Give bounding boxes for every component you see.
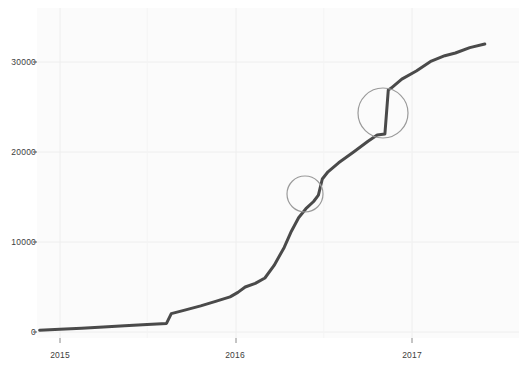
y-axis-tick-label-30000: 30000: [2, 57, 36, 67]
y-axis-tick-label-20000: 20000: [2, 147, 36, 157]
plot-area: [0, 0, 522, 369]
x-axis-tick-label-2017: 2017: [392, 350, 432, 360]
x-axis-tick-label-2016: 2016: [215, 350, 255, 360]
x-axis-tick-label-2015: 2015: [40, 350, 80, 360]
y-axis-tick-label-0: 0: [2, 327, 36, 337]
plot-panel-background: [37, 8, 519, 338]
chart-container: 30000 20000 10000 0 2015 2016 2017: [0, 0, 522, 369]
y-axis-tick-label-10000: 10000: [2, 237, 36, 247]
